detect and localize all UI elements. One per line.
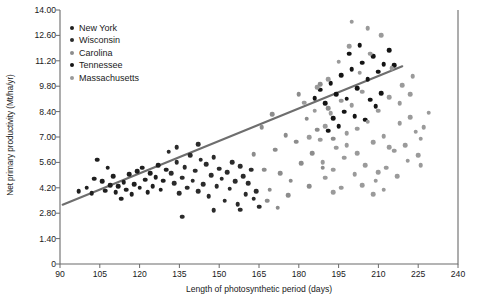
scatter-point [320,160,325,165]
scatter-point [185,186,190,191]
scatter-point [103,188,108,193]
scatter-point [140,166,145,171]
scatter-point [273,147,278,152]
scatter-point [148,171,153,176]
scatter-point [196,142,201,147]
scatter-point [201,182,206,187]
scatter-point [376,69,381,74]
scatter-point [174,160,179,165]
scatter-point [403,143,408,148]
scatter-point [262,167,267,172]
scatter-point [350,103,355,108]
scatter-point [408,115,413,120]
scatter-point [161,178,166,183]
scatter-point [95,157,100,162]
scatter-point [355,127,360,132]
scatter-point [384,166,389,171]
scatter-point [368,98,373,103]
scatter-point [427,110,432,115]
scatter-point [355,151,360,156]
scatter-point [238,207,243,212]
scatter-point [315,85,320,90]
scatter-point [339,186,344,191]
scatter-point [159,187,164,192]
scatter-point [267,187,272,192]
scatter-point [323,101,328,106]
scatter-point [368,51,373,56]
scatter-point [397,121,402,126]
scatter-point [352,172,357,177]
scatter-point [90,191,95,196]
scatter-point [246,181,251,186]
scatter-point [206,194,211,199]
scatter-point [241,174,246,179]
scatter-point [182,165,187,170]
scatter-point [387,95,392,100]
scatter-point [339,73,344,78]
scatter-point [371,140,376,145]
scatter-point [421,125,426,130]
scatter-point [400,83,405,88]
scatter-point [113,190,118,195]
scatter-point [363,163,368,168]
scatter-point [76,189,81,194]
scatter-point [156,163,161,168]
scatter-point [270,112,275,117]
scatter-point [344,131,349,136]
scatter-point [323,124,328,129]
scatter-point [339,98,344,103]
scatter-point [350,19,355,24]
scatter-point [328,81,333,86]
scatter-point [164,167,169,172]
scatter-point [336,124,341,129]
scatter-point [320,166,325,171]
scatter-point [297,92,302,97]
scatter-point [84,186,89,191]
scatter-point [310,151,315,156]
scatter-point [174,145,179,150]
scatter-point [395,174,400,179]
scatter-point [129,192,134,197]
scatter-point [145,190,150,195]
scatter-point [334,146,339,151]
scatter-point [228,186,233,191]
scatter-point [408,92,413,97]
scatter-point [419,137,424,142]
scatter-point [180,176,185,181]
scatter-point [365,119,370,124]
scatter-point [331,116,336,121]
scatter-point [180,215,185,220]
scatter-point [419,163,424,168]
scatter-point [342,156,347,161]
scatter-point [360,60,365,65]
scatter-point [365,77,370,82]
scatter-point [230,160,235,165]
scatter-point [312,96,317,101]
chart-figure: Net primary productivity (Mt/ha/yr) 01.4… [0,0,478,304]
scatter-point [387,145,392,150]
scatter-point [323,176,328,181]
scatter-point [198,157,203,162]
scatter-point [376,170,381,175]
scatter-point [153,175,158,180]
scatter-point [233,179,238,184]
scatter-point [360,89,365,94]
scatter-point [376,108,381,113]
scatter-point [251,152,256,157]
trend-line [63,66,403,204]
scatter-point [111,174,116,179]
scatter-point [344,143,349,148]
scatter-point [299,161,304,166]
scatter-point [278,171,283,176]
scatter-point [350,67,355,72]
scatter-point [212,155,217,160]
scatter-point [342,109,347,114]
scatter-point [312,108,317,113]
scatter-point [304,117,309,122]
scatter-point [307,135,312,140]
scatter-point [289,178,294,183]
scatter-point [265,198,270,203]
scatter-point [347,44,352,49]
scatter-point [204,162,209,167]
scatter-point [257,205,262,210]
